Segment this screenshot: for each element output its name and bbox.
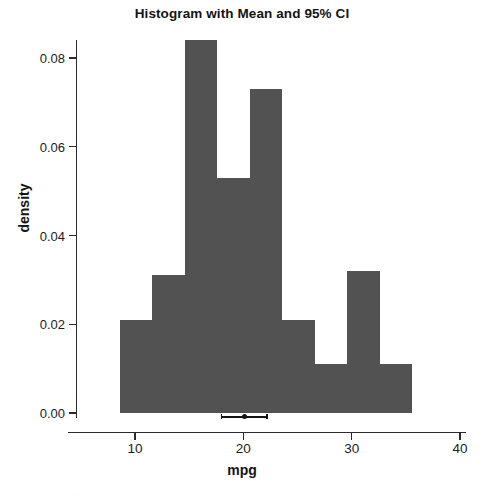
y-tick-label: 0.00 — [3, 406, 65, 421]
y-tick-mark — [69, 324, 76, 325]
mean-point-marker — [242, 414, 247, 419]
y-tick-label: 0.04 — [3, 228, 65, 243]
y-tick-mark — [69, 412, 76, 413]
histogram-bar — [282, 320, 315, 413]
y-tick-mark — [69, 57, 76, 58]
y-tick-mark — [69, 146, 76, 147]
x-tick-label: 40 — [435, 441, 484, 456]
x-tick-mark — [134, 433, 135, 440]
y-tick-label: 0.08 — [3, 51, 65, 66]
x-axis-label: mpg — [0, 462, 484, 478]
x-tick-mark — [459, 433, 460, 440]
histogram-bar — [250, 89, 283, 413]
y-axis-line — [76, 40, 77, 418]
histogram-figure: Histogram with Mean and 95% CI 0.000.020… — [0, 0, 484, 498]
x-tick-mark — [243, 433, 244, 440]
scan-artifact-text: ... — [74, 487, 334, 496]
chart-title: Histogram with Mean and 95% CI — [0, 6, 484, 21]
ci-cap-left — [221, 414, 223, 419]
histogram-bar — [380, 364, 413, 413]
x-tick-label: 30 — [327, 441, 377, 456]
y-tick-label: 0.02 — [3, 317, 65, 332]
x-tick-label: 20 — [218, 441, 268, 456]
histogram-bar — [185, 40, 218, 413]
x-tick-label: 10 — [110, 441, 160, 456]
histogram-bar — [120, 320, 153, 413]
y-tick-label: 0.06 — [3, 139, 65, 154]
y-axis-label: density — [16, 108, 32, 308]
y-tick-mark — [69, 235, 76, 236]
histogram-bar — [347, 271, 380, 413]
x-tick-mark — [351, 433, 352, 440]
x-axis-line — [68, 432, 466, 433]
histogram-bar — [217, 178, 250, 413]
histogram-bar — [152, 275, 185, 413]
ci-cap-right — [266, 414, 268, 419]
histogram-bar — [315, 364, 348, 413]
